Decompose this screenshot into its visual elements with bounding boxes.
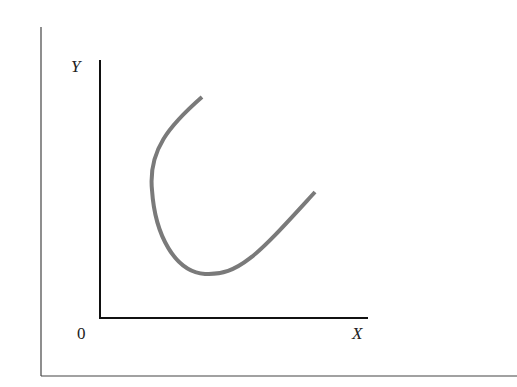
curve — [152, 97, 315, 274]
y-axis-label: Y — [71, 58, 80, 75]
x-axis-label: X — [352, 325, 362, 342]
origin-label: 0 — [77, 325, 86, 342]
